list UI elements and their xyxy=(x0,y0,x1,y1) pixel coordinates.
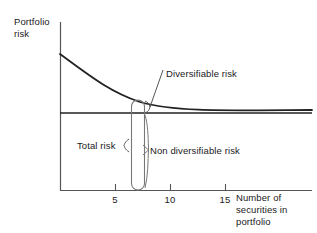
y-axis-label-line-1: Portfolio xyxy=(14,16,50,28)
x-axis-label-line-3: portfolio xyxy=(236,216,287,228)
non-diversifiable-risk-bracket-tip xyxy=(143,145,149,155)
y-axis-label: Portfolio risk xyxy=(14,16,50,40)
x-axis-label: Number of securities in portfolio xyxy=(236,192,287,228)
total-risk-curve xyxy=(60,54,312,110)
diversifiable-risk-label: Diversifiable risk xyxy=(166,68,237,80)
total-risk-label: Total risk xyxy=(77,140,115,152)
x-tick-label-15: 15 xyxy=(215,194,235,206)
x-axis-label-line-1: Number of xyxy=(236,192,287,204)
total-risk-bracket xyxy=(124,139,129,152)
chart-figure: Portfolio risk Number of securities in p… xyxy=(0,0,317,233)
x-tick-label-5: 5 xyxy=(105,194,125,206)
x-axis-label-line-2: securities in xyxy=(236,204,287,216)
non-diversifiable-risk-label: Non diversifiable risk xyxy=(150,145,240,157)
diversifiable-risk-leader xyxy=(150,70,163,107)
x-tick-label-10: 10 xyxy=(160,194,180,206)
y-axis-label-line-2: risk xyxy=(14,28,50,40)
